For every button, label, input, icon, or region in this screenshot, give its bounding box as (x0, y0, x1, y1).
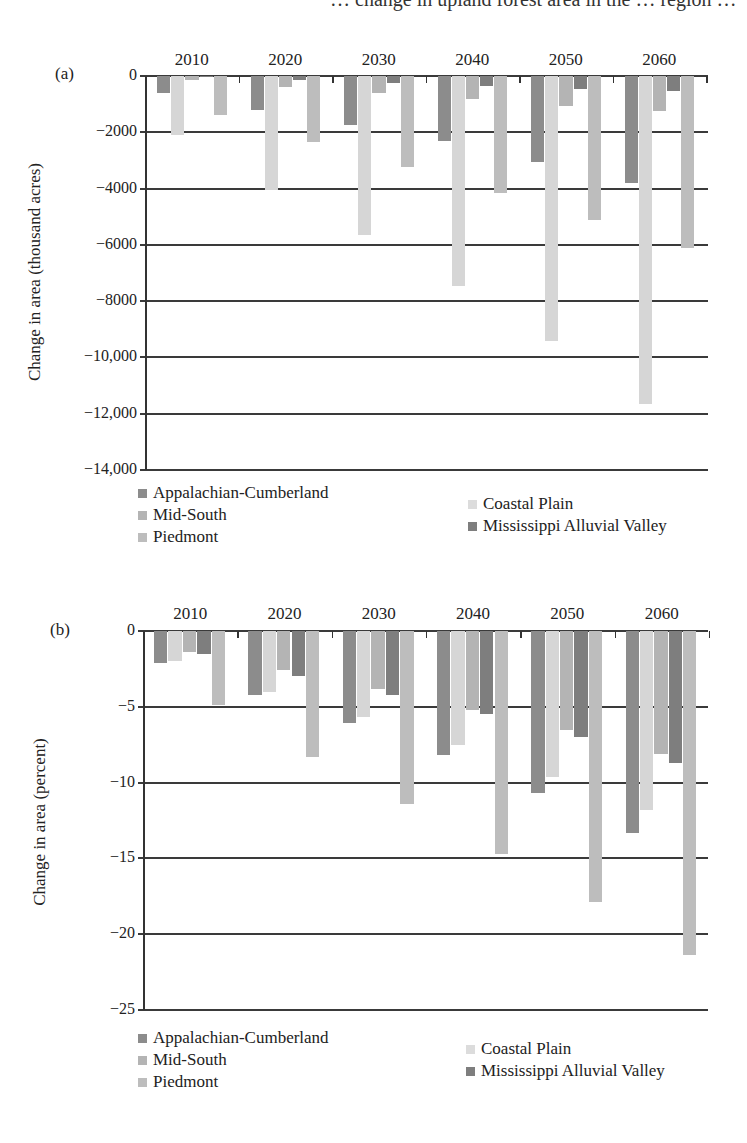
bar (531, 631, 544, 793)
legend-item-mid-south: Mid-South (138, 1050, 227, 1070)
gridline (138, 857, 708, 859)
x-tick (709, 631, 711, 638)
gridline (138, 1009, 708, 1011)
y-tick-label: −5 (55, 697, 135, 715)
legend-item-appalachian-cumberland: Appalachian-Cumberland (138, 1028, 329, 1048)
bar (212, 631, 225, 705)
x-tick (332, 631, 334, 638)
bar (589, 631, 602, 902)
bar (437, 631, 450, 755)
y-tick-label: 0 (55, 621, 135, 639)
x-tick (237, 631, 239, 638)
bar (654, 631, 667, 754)
y-tick-label: −25 (55, 1000, 135, 1018)
legend-item-coastal-plain: Coastal Plain (466, 1039, 571, 1059)
bar (683, 631, 696, 955)
bar (546, 631, 559, 777)
bar (495, 631, 508, 854)
bar (168, 631, 181, 661)
x-category-label: 2040 (443, 604, 503, 624)
legend-swatch (138, 1078, 147, 1087)
bar (197, 631, 210, 654)
bar (466, 631, 479, 710)
gridline (138, 782, 708, 784)
legend-label: Appalachian-Cumberland (153, 1028, 329, 1048)
x-tick (615, 631, 617, 638)
legend-swatch (138, 1056, 147, 1065)
bar (306, 631, 319, 757)
y-tick-label: −20 (55, 924, 135, 942)
bar (480, 631, 493, 714)
legend-label: Coastal Plain (481, 1039, 571, 1059)
bar (263, 631, 276, 692)
legend-swatch (138, 1034, 147, 1043)
x-category-label: 2010 (160, 604, 220, 624)
x-category-label: 2030 (349, 604, 409, 624)
y-tick-label: −15 (55, 848, 135, 866)
bar (183, 631, 196, 652)
bar (357, 631, 370, 717)
x-tick (520, 631, 522, 638)
x-category-label: 2020 (254, 604, 314, 624)
x-category-label: 2060 (632, 604, 692, 624)
gridline (138, 706, 708, 708)
legend-label: Mid-South (153, 1050, 227, 1070)
legend-swatch (466, 1045, 475, 1054)
bar (277, 631, 290, 670)
bar (669, 631, 682, 763)
y-tick-label: −10 (55, 773, 135, 791)
bar (343, 631, 356, 723)
chart-panel-b: (b) Change in area (percent) 0−5−10−15−2… (0, 0, 747, 1143)
y-axis-label: Change in area (percent) (30, 722, 50, 922)
gridline (138, 933, 708, 935)
x-category-label: 2050 (537, 604, 597, 624)
legend-item-mississippi-alluvial-valley: Mississippi Alluvial Valley (466, 1061, 665, 1081)
bar (248, 631, 261, 695)
y-axis-line (143, 631, 145, 1010)
bar (386, 631, 399, 695)
legend-item-piedmont: Piedmont (138, 1072, 218, 1092)
bar (400, 631, 413, 804)
legend-swatch (466, 1067, 475, 1076)
bar (640, 631, 653, 810)
bar (292, 631, 305, 676)
x-tick (426, 631, 428, 638)
bar (451, 631, 464, 745)
bar (560, 631, 573, 730)
bar (154, 631, 167, 663)
legend-label: Mississippi Alluvial Valley (481, 1061, 665, 1081)
legend-label: Piedmont (153, 1072, 218, 1092)
bar (574, 631, 587, 737)
bar (371, 631, 384, 689)
bar (626, 631, 639, 833)
